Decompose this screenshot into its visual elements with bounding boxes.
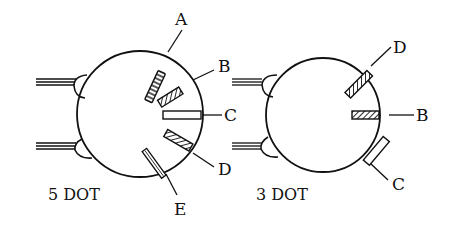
dot-b-icon — [158, 87, 183, 107]
label-c: C — [392, 174, 405, 194]
label-b: B — [218, 56, 231, 76]
wire-bottom-icon — [232, 143, 262, 149]
label-d: D — [218, 159, 232, 179]
label-e: E — [174, 199, 186, 219]
label-b: B — [416, 105, 429, 125]
dot-b-icon — [352, 111, 379, 119]
dot-d-icon — [164, 130, 193, 151]
dot-c-icon — [163, 111, 201, 119]
dot-e-icon — [142, 148, 166, 178]
label-c: C — [224, 105, 237, 125]
label-a: A — [174, 9, 188, 29]
wire-bottom-icon — [36, 143, 76, 149]
wire-top-icon — [36, 79, 76, 85]
dot-diagrams: A B C D E 5 DOT — [0, 0, 455, 225]
dot-d-icon — [345, 70, 373, 98]
three-dot-diagram: D B C 3 DOT — [232, 37, 429, 204]
caption-three-dot: 3 DOT — [256, 185, 308, 204]
label-d: D — [393, 37, 407, 57]
caption-five-dot: 5 DOT — [48, 185, 100, 204]
five-dot-diagram: A B C D E 5 DOT — [36, 9, 237, 219]
wire-top-icon — [232, 79, 262, 85]
